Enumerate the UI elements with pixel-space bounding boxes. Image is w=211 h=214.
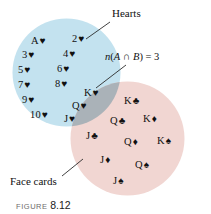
card-suit: ♥ [24,79,31,90]
card-label-intersection: Q♥ [72,101,87,112]
card-label: 4♥ [63,49,76,60]
card-label: 5♥ [18,65,31,76]
card-label: A♥ [31,36,46,47]
card-label: Q♠ [135,160,149,171]
venn-diagram: A♥ 2♥ 3♥ 4♥ 5♥ 6♥ 7♥ 8♥ 9♥ 10♥ K♥ Q♥ J♥ … [0,0,211,214]
card-suit: ♥ [63,63,70,74]
card-label: K♣ [124,96,140,107]
card-label: 7♥ [18,80,31,91]
intersection-annotation: n(A ∩ B) = 3 [105,52,159,63]
card-suit: ♥ [24,64,31,75]
card-label: K♦ [143,114,157,125]
card-suit: ♥ [41,109,48,120]
card-suit: ♠ [143,159,149,170]
figure-caption: FIGURE8.12 [16,196,71,212]
card-suit: ♥ [92,87,99,98]
card-label: 10♥ [30,110,48,121]
card-suit: ♥ [80,100,87,111]
card-suit: ♦ [105,154,111,165]
annotation-count: 3 [154,51,159,62]
annotation-equals: = [143,51,154,62]
card-suit: ♥ [69,113,76,124]
card-label: 8♥ [55,79,68,90]
card-label: 3♥ [22,50,35,61]
card-label: 6♥ [57,64,70,75]
card-suit: ♣ [91,130,98,141]
figure-8-12: A♥ 2♥ 3♥ 4♥ 5♥ 6♥ 7♥ 8♥ 9♥ 10♥ K♥ Q♥ J♥ … [0,0,211,214]
hearts-set-label: Hearts [112,8,141,19]
card-label: J♣ [86,131,98,142]
card-suit: ♥ [28,49,35,60]
card-suit: ♥ [39,35,46,46]
figure-caption-word: FIGURE [16,202,48,211]
card-label-intersection: J♥ [64,114,75,125]
card-suit: ♥ [69,48,76,59]
card-suit: ♦ [151,113,157,124]
card-label: 9♥ [22,95,35,106]
card-suit: ♠ [165,135,171,146]
card-suit: ♥ [61,78,68,89]
card-label: 2♥ [72,34,85,45]
card-suit: ♦ [132,136,138,147]
card-label: J♠ [113,176,124,187]
card-label-intersection: K♥ [84,88,99,99]
card-suit: ♥ [28,94,35,105]
card-label: Q♣ [110,116,126,127]
intersection-symbol: ∩ [120,51,133,62]
card-label: K♠ [157,136,171,147]
card-suit: ♠ [118,175,124,186]
card-label: Q♦ [124,137,138,148]
face-cards-set-label: Face cards [10,176,57,187]
figure-caption-number: 8.12 [48,199,71,211]
card-suit: ♣ [132,95,139,106]
card-rank: 10 [30,109,41,120]
card-suit: ♣ [118,115,125,126]
card-suit: ♥ [78,33,85,44]
card-label: J♦ [100,155,111,166]
